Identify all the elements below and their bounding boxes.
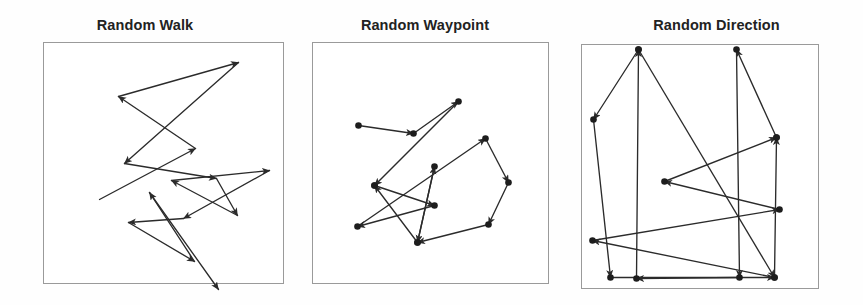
waypoint-node: [736, 274, 743, 281]
waypoint-node: [733, 46, 740, 53]
waypoint-node: [589, 237, 596, 244]
random-walk-plot: [0, 0, 290, 305]
waypoint-node: [505, 179, 512, 186]
waypoint-node: [354, 223, 361, 230]
waypoint-node: [771, 274, 778, 281]
waypoint-node: [776, 206, 783, 213]
random-direction-plot: [570, 0, 863, 305]
waypoint-node: [635, 46, 642, 53]
panel-random-walk: Random Walk: [0, 0, 290, 305]
panel-frame-random-waypoint: [313, 43, 549, 284]
waypoint-node: [607, 274, 614, 281]
panel-frame-random-walk: [44, 43, 284, 284]
waypoint-node: [355, 122, 362, 129]
random-waypoint-plot: [290, 0, 570, 305]
waypoint-node: [661, 178, 668, 185]
waypoint-node: [455, 98, 462, 105]
waypoint-node: [431, 163, 438, 170]
waypoint-node: [590, 116, 597, 123]
waypoint-node: [773, 134, 780, 141]
panel-random-direction: Random Direction: [570, 0, 863, 305]
waypoint-node: [414, 239, 421, 246]
panel-random-waypoint: Random Waypoint: [290, 0, 570, 305]
waypoint-node: [431, 202, 438, 209]
panel-frame-random-direction: [582, 45, 819, 289]
waypoint-node: [633, 275, 640, 282]
waypoint-node: [482, 135, 489, 142]
waypoint-node: [485, 221, 492, 228]
waypoint-node: [371, 182, 378, 189]
waypoint-node: [410, 130, 417, 137]
mobility-models-figure: Random Walk Random Waypoint Ran: [0, 0, 863, 305]
